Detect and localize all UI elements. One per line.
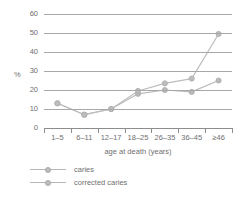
y-axis-tick-labels: 0102030405060 [4,14,38,128]
legend-marker-icon [30,178,66,187]
legend-label: corrected caries [74,179,127,187]
x-axis-tick-label: 18–25 [128,134,149,142]
x-axis-tick-label: ≥46 [212,134,224,142]
x-axis-tick [44,128,45,133]
y-axis-tick-label: 30 [6,67,38,75]
legend-label: caries [74,166,94,174]
data-point-marker [216,78,221,83]
gridline [44,52,232,53]
gridline [44,109,232,110]
x-axis-tick [205,128,206,133]
x-axis-tick-label: 26–35 [154,134,175,142]
series-line [57,34,218,115]
x-axis-title: age at death (years) [44,147,232,156]
data-point-marker [82,112,87,117]
data-point-marker [189,76,194,81]
gridline [44,71,232,72]
chart-container: % 0102030405060 1–56–1112–1718–2526–3536… [0,0,250,200]
y-axis-tick-label: 0 [6,124,38,132]
y-axis-tick-label: 10 [6,105,38,113]
x-axis-tick-labels: 1–56–1112–1718–2526–3536–45≥46 [44,134,232,146]
y-axis-tick-label: 20 [6,86,38,94]
x-axis-tick-label: 36–45 [181,134,202,142]
data-point-marker [55,101,60,106]
x-axis-tick [178,128,179,133]
x-axis-tick [125,128,126,133]
legend-marker-icon [30,165,66,174]
plot-area [44,14,232,128]
legend-item-caries: caries [30,163,127,176]
x-axis-tick [151,128,152,133]
gridline [44,14,232,15]
gridline [44,33,232,34]
gridline [44,90,232,91]
x-axis-tick-label: 6–11 [76,134,92,142]
x-axis-tick-label: 12–17 [101,134,122,142]
y-axis-tick-label: 60 [6,10,38,18]
x-axis-tick [98,128,99,133]
legend-item-corrected-caries: corrected caries [30,176,127,189]
x-axis-line [44,128,232,129]
y-axis-tick-label: 50 [6,29,38,37]
y-axis-tick-label: 40 [6,48,38,56]
x-axis-tick [71,128,72,133]
data-point-marker [162,81,167,86]
chart-legend: caries corrected caries [30,163,127,189]
x-axis-tick [232,128,233,133]
x-axis-tick-label: 1–5 [51,134,64,142]
